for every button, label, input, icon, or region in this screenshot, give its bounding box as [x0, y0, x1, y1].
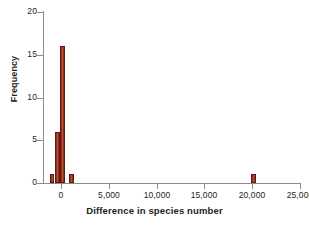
- y-tick-label: 0: [32, 178, 37, 187]
- y-tick-label: 20: [27, 7, 37, 16]
- y-tick-mark: [37, 55, 43, 56]
- x-tick-mark: [252, 184, 253, 189]
- x-tick-label: 25,000: [287, 191, 309, 200]
- histogram-chart: 05101520 05,00010,00015,00020,00025,000 …: [0, 0, 309, 225]
- y-tick-mark: [37, 183, 43, 184]
- y-tick-mark: [37, 140, 43, 141]
- x-axis-line: [43, 183, 301, 184]
- x-tick-label: 20,000: [239, 191, 266, 200]
- y-tick-label: 10: [27, 93, 37, 102]
- x-tick-mark: [61, 184, 62, 189]
- histogram-bar: [251, 174, 256, 183]
- x-axis-title: Difference in species number: [0, 205, 309, 216]
- x-tick-mark: [157, 184, 158, 189]
- histogram-bar: [50, 174, 55, 183]
- y-axis-title: Frequency: [9, 29, 19, 129]
- x-tick-label: 5,000: [98, 191, 120, 200]
- y-tick-mark: [37, 98, 43, 99]
- y-tick-label: 15: [27, 50, 37, 59]
- x-tick-label: 0: [59, 191, 64, 200]
- x-tick-label: 10,000: [144, 191, 171, 200]
- x-tick-mark: [109, 184, 110, 189]
- plot-area: [44, 12, 300, 183]
- x-tick-mark: [204, 184, 205, 189]
- y-tick-mark: [37, 12, 43, 13]
- x-tick-label: 15,000: [191, 191, 218, 200]
- histogram-bar: [60, 46, 65, 183]
- x-tick-mark: [300, 184, 301, 189]
- y-tick-label: 5: [32, 135, 37, 144]
- histogram-bar: [69, 174, 74, 183]
